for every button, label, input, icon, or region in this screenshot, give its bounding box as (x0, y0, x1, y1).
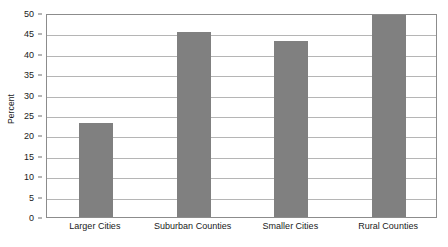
y-axis-tick-mark (38, 14, 42, 15)
y-axis-tick-label: 15 (24, 152, 34, 162)
y-axis-tick-mark (38, 116, 42, 117)
y-axis-tick-label: 10 (24, 172, 34, 182)
y-axis-tick-label: 0 (29, 213, 34, 223)
y-axis-tick-mark (38, 218, 42, 219)
y-axis-tick-label: 40 (24, 50, 34, 60)
x-axis-tick-label: Smaller Cities (263, 221, 319, 231)
y-axis-tick-label: 50 (24, 9, 34, 19)
y-axis-tick-mark (38, 34, 42, 35)
y-axis-tick-labels: 05101520253035404550 (18, 14, 42, 218)
y-axis-title-text: Percent (6, 94, 16, 124)
x-axis-tick-label: Larger Cities (69, 221, 120, 231)
y-axis-tick-mark (38, 156, 42, 157)
bar (274, 41, 308, 217)
x-axis-tick-label: Rural Counties (358, 221, 418, 231)
y-axis-tick-label: 5 (29, 193, 34, 203)
y-axis-tick-label: 20 (24, 131, 34, 141)
plot-area (46, 14, 437, 218)
y-axis-tick-mark (38, 54, 42, 55)
bar-chart: Percent 05101520253035404550 Larger Citi… (0, 0, 448, 247)
y-axis-tick-label: 25 (24, 111, 34, 121)
bar (372, 15, 406, 217)
bar (79, 123, 113, 217)
y-axis-tick-mark (38, 197, 42, 198)
y-axis-tick-label: 30 (24, 91, 34, 101)
y-axis-tick-label: 45 (24, 29, 34, 39)
x-axis-tick-label: Suburban Counties (154, 221, 231, 231)
bars-group (47, 15, 436, 217)
y-axis-tick-mark (38, 136, 42, 137)
y-axis-tick-mark (38, 75, 42, 76)
x-axis-tick-labels: Larger CitiesSuburban CountiesSmaller Ci… (46, 221, 437, 241)
y-axis-tick-label: 35 (24, 70, 34, 80)
y-axis-tick-mark (38, 95, 42, 96)
y-axis-tick-mark (38, 177, 42, 178)
bar (177, 32, 211, 217)
